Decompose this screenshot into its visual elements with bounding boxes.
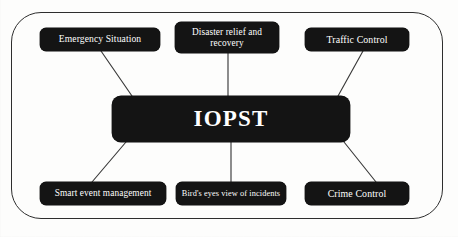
node-emergency-situation[interactable]: Emergency Situation	[40, 28, 160, 51]
diagram-canvas: Emergency Situation Disaster relief and …	[0, 0, 458, 237]
node-iopst-label: IOPST	[189, 106, 272, 132]
node-iopst-center[interactable]: IOPST	[112, 96, 350, 142]
connector-iopst-to-smart-event-management	[92, 142, 126, 182]
node-birds-eyes-view-of-incidents-label: Bird's eyes view of incidents	[178, 189, 284, 198]
node-crime-control[interactable]: Crime Control	[305, 182, 409, 205]
node-disaster-relief-and-recovery[interactable]: Disaster relief and recovery	[175, 22, 279, 53]
node-traffic-control[interactable]: Traffic Control	[305, 28, 409, 51]
node-traffic-control-label: Traffic Control	[322, 34, 391, 45]
connector-iopst-to-crime-control	[344, 142, 376, 182]
node-disaster-relief-and-recovery-label: Disaster relief and recovery	[188, 27, 266, 48]
node-smart-event-management[interactable]: Smart event management	[40, 182, 166, 205]
connector-iopst-to-emergency-situation	[101, 51, 132, 96]
connector-iopst-to-traffic-control	[338, 51, 363, 96]
node-emergency-situation-label: Emergency Situation	[55, 34, 145, 45]
node-crime-control-label: Crime Control	[324, 188, 391, 199]
node-birds-eyes-view-of-incidents[interactable]: Bird's eyes view of incidents	[176, 182, 286, 205]
node-smart-event-management-label: Smart event management	[51, 188, 156, 198]
